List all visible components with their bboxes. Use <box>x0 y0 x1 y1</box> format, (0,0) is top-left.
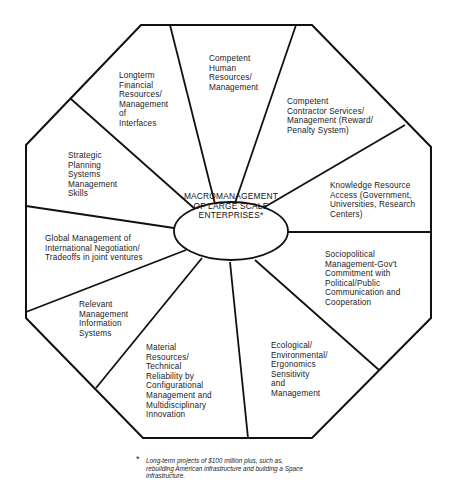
segment-financial-resources: Longterm Financial Resources/ Management… <box>119 71 168 129</box>
segment-sociopolitical: Sociopolitical Management-Gov't Commitme… <box>325 250 400 308</box>
segment-human-resources: Competent Human Resources/ Management <box>209 54 258 92</box>
segment-information-systems: Relevant Management Information Systems <box>79 300 128 338</box>
footnote: * Long-term projects of $100 million plu… <box>138 457 338 480</box>
footnote-text: Long-term projects of $100 million plus,… <box>138 457 338 480</box>
segment-ecological: Ecological/ Environmental/ Ergonomics Se… <box>271 341 328 399</box>
segment-material-resources: Material Resources/ Technical Reliabilit… <box>146 343 212 420</box>
segment-contractor-services: Competent Contractor Services/ Managemen… <box>287 97 373 135</box>
segment-global-management: Global Management of International Negot… <box>45 234 143 263</box>
segment-strategic-planning: Strategic Planning Systems Management Sk… <box>68 151 117 199</box>
segment-knowledge-resource: Knowledge Resource Access (Government, U… <box>330 181 415 219</box>
center-title: MACROMANAGEMENT OF LARGE SCALE ENTERPRIS… <box>174 192 288 221</box>
footnote-marker: * <box>136 456 140 464</box>
